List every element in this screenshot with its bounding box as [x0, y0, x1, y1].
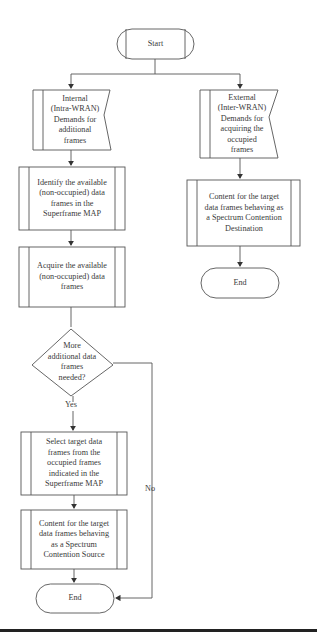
- internal-demand-label: Internal (Intra-WRAN) Demands for additi…: [43, 90, 107, 150]
- acquire-label: Acquire the available (non-occupied) dat…: [29, 247, 115, 307]
- end-left-label: End: [36, 584, 114, 613]
- decision-label: More additional data frames needed?: [42, 336, 102, 388]
- yes-label: Yes: [65, 400, 77, 409]
- contention-source-label: Content for the target data frames behav…: [31, 510, 117, 569]
- end-right-label: End: [201, 268, 279, 298]
- bottom-rule: [0, 629, 317, 632]
- external-demand-label: External (Inter-WRAN) Demands for acquir…: [210, 90, 274, 158]
- select-target-label: Select target data frames from the occup…: [31, 432, 117, 495]
- identify-label: Identify the available (non-occupied) da…: [29, 167, 115, 230]
- contention-destination-label: Content for the target data frames behav…: [197, 180, 291, 246]
- start-label: Start: [117, 29, 194, 59]
- no-label: No: [145, 484, 155, 493]
